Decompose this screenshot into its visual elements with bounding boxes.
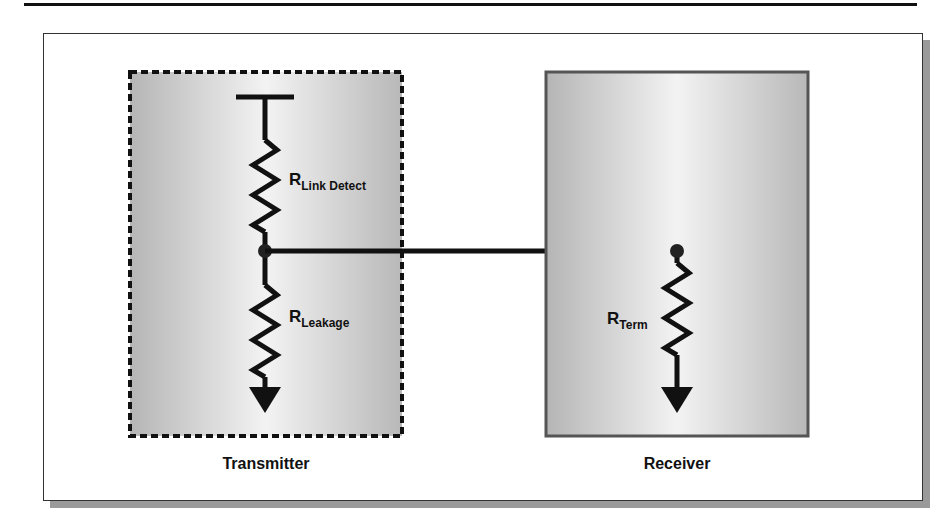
junction-node-icon <box>670 244 684 258</box>
receiver-block: RTerm Receiver <box>546 72 808 472</box>
transmitter-label: Transmitter <box>222 455 309 472</box>
receiver-label: Receiver <box>644 455 711 472</box>
transmitter-block: RLink Detect RLeakage Transmitter <box>130 72 402 472</box>
circuit-diagram: RLink Detect RLeakage Transmitter RTerm … <box>0 0 950 532</box>
